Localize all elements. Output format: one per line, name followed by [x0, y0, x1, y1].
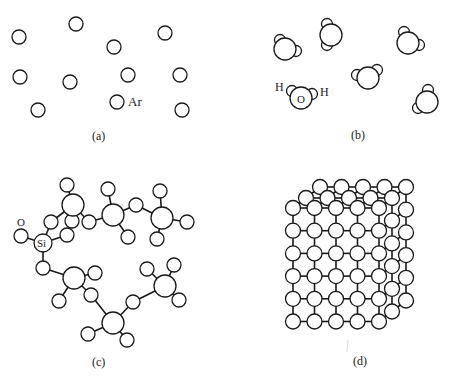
lattice-atom	[385, 236, 400, 251]
lattice-atom	[399, 248, 414, 263]
oxygen-atom	[60, 228, 74, 242]
lattice-atom	[399, 225, 414, 240]
lattice-atom	[372, 291, 387, 306]
lattice-atom	[385, 304, 400, 319]
lattice-atom	[350, 201, 365, 216]
oxygen-atom	[167, 258, 181, 272]
lattice-atom	[307, 201, 322, 216]
lattice-atom	[399, 202, 414, 217]
lattice-atom	[286, 314, 301, 329]
oxygen-atom	[44, 215, 58, 229]
lattice-atom	[385, 281, 400, 296]
oxygen-atom	[88, 266, 102, 280]
oxygen-atom	[150, 232, 164, 246]
lattice-atom	[329, 201, 344, 216]
oxygen-atom	[153, 184, 167, 198]
oxygen-atom	[101, 182, 115, 196]
oxygen-atom	[416, 91, 438, 113]
lattice-atom	[372, 201, 387, 216]
caption-a: (a)	[92, 129, 105, 143]
oxygen-atom	[129, 198, 143, 212]
lattice-atom	[329, 223, 344, 238]
panel-a-argon-gas	[12, 17, 189, 117]
lattice-atom	[350, 269, 365, 284]
lattice-atom	[329, 246, 344, 261]
silicon-label: Si	[37, 237, 46, 249]
lattice-atom	[286, 269, 301, 284]
oxygen-atom	[82, 215, 96, 229]
oxygen-atom	[84, 288, 98, 302]
lattice-atom	[350, 246, 365, 261]
silicon-atom	[151, 207, 173, 229]
stray-mark	[347, 340, 348, 352]
states-of-matter-figure: Ar (a) H O H (b) O Si (c) (d)	[0, 0, 450, 382]
lattice-atom	[399, 293, 414, 308]
lattice-atom	[307, 291, 322, 306]
lattice-atom	[329, 269, 344, 284]
lattice-atom	[307, 246, 322, 261]
argon-atom	[121, 68, 135, 82]
oxygen-atom	[140, 262, 154, 276]
lattice-atom	[286, 291, 301, 306]
oxygen-atom	[121, 230, 135, 244]
hydrogen-label-left: H	[275, 80, 284, 94]
panel-c-silica-network	[14, 178, 194, 347]
argon-atom	[69, 17, 83, 31]
silicon-atom	[63, 267, 85, 289]
lattice-atom	[329, 291, 344, 306]
lattice-atom	[307, 269, 322, 284]
lattice-atom	[372, 314, 387, 329]
silicon-atom	[62, 194, 84, 216]
silicon-atom	[102, 312, 124, 334]
argon-atom	[63, 75, 77, 89]
lattice-atom	[350, 314, 365, 329]
oxygen-atom	[14, 229, 28, 243]
silicon-atom	[102, 204, 124, 226]
oxygen-atom	[52, 294, 66, 308]
argon-atom	[175, 103, 189, 117]
lattice-atom	[286, 223, 301, 238]
lattice-atom	[372, 223, 387, 238]
lattice-atom	[372, 246, 387, 261]
oxygen-atom	[120, 333, 134, 347]
oxygen-atom	[180, 215, 194, 229]
lattice-atom	[385, 191, 400, 206]
oxygen-label-network: O	[17, 216, 25, 228]
lattice-atom	[329, 314, 344, 329]
argon-atom	[158, 26, 172, 40]
lattice-atom	[385, 213, 400, 228]
lattice-atom	[350, 223, 365, 238]
oxygen-atom	[126, 295, 140, 309]
argon-atom	[13, 70, 27, 84]
lattice-atom	[385, 259, 400, 274]
argon-atom	[31, 103, 45, 117]
lattice-atom	[286, 201, 301, 216]
oxygen-label-water: O	[297, 93, 305, 105]
argon-label: Ar	[128, 94, 142, 109]
panel-d-crystal-lattice	[286, 180, 414, 330]
oxygen-atom	[172, 293, 186, 307]
lattice-atom	[286, 246, 301, 261]
hydrogen-label-right: H	[320, 85, 329, 99]
caption-d: (d)	[353, 354, 367, 368]
silicon-atom	[154, 275, 176, 297]
lattice-atom	[399, 270, 414, 285]
lattice-atom	[399, 180, 414, 195]
argon-atom	[107, 40, 121, 54]
caption-c: (c)	[92, 355, 105, 369]
argon-atom	[173, 68, 187, 82]
oxygen-atom	[320, 24, 342, 46]
lattice-atom	[350, 291, 365, 306]
oxygen-atom	[397, 32, 419, 54]
lattice-atom	[307, 223, 322, 238]
oxygen-atom	[357, 67, 379, 89]
oxygen-atom	[81, 327, 95, 341]
argon-atom	[12, 30, 26, 44]
caption-b: (b)	[351, 128, 365, 142]
argon-atom	[110, 95, 124, 109]
lattice-atom	[372, 269, 387, 284]
oxygen-atom	[60, 178, 74, 192]
oxygen-atom	[36, 261, 50, 275]
oxygen-atom	[274, 38, 296, 60]
lattice-atom	[307, 314, 322, 329]
